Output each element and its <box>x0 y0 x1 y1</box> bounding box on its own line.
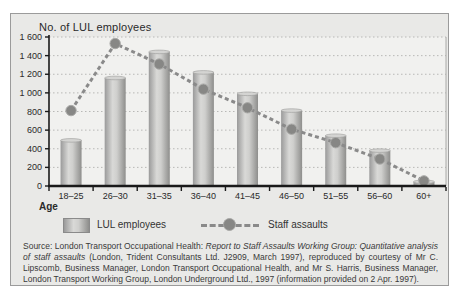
svg-text:0: 0 <box>37 181 42 191</box>
legend-bar-label: LUL employees <box>97 219 166 230</box>
page: { "figure": { "y_axis_title": "No. of LU… <box>0 0 459 290</box>
source-prefix: Source: London Transport Occupational He… <box>23 241 206 251</box>
x-axis-label: Age <box>39 201 58 212</box>
legend: LUL employees Staff assaults <box>11 213 448 237</box>
svg-text:800: 800 <box>27 107 42 117</box>
svg-text:41–45: 41–45 <box>235 191 260 201</box>
svg-text:56–60: 56–60 <box>367 191 392 201</box>
legend-line-label: Staff assaults <box>268 219 328 230</box>
legend-bar-swatch <box>63 218 90 233</box>
svg-text:26–30: 26–30 <box>103 191 128 201</box>
svg-text:600: 600 <box>27 125 42 135</box>
source-suffix: (London, Trident Consultants Ltd. J2909,… <box>23 252 438 284</box>
source-note: Source: London Transport Occupational He… <box>23 241 438 285</box>
svg-text:46–50: 46–50 <box>279 191 304 201</box>
svg-text:51–55: 51–55 <box>323 191 348 201</box>
svg-text:18–25: 18–25 <box>59 191 84 201</box>
svg-text:400: 400 <box>27 144 42 154</box>
svg-text:200: 200 <box>27 162 42 172</box>
svg-text:1 600: 1 600 <box>19 32 42 42</box>
legend-line-marker-icon <box>223 218 236 231</box>
svg-text:1 000: 1 000 <box>19 88 42 98</box>
figure-panel: No. of LUL employees 02004006008001 0001… <box>10 13 449 286</box>
svg-text:60+: 60+ <box>416 191 431 201</box>
svg-text:36–40: 36–40 <box>191 191 216 201</box>
svg-text:31–35: 31–35 <box>147 191 172 201</box>
combo-chart: 02004006008001 0001 2001 4001 60018–2526… <box>11 14 448 214</box>
svg-text:1 400: 1 400 <box>19 51 42 61</box>
svg-text:1 200: 1 200 <box>19 69 42 79</box>
